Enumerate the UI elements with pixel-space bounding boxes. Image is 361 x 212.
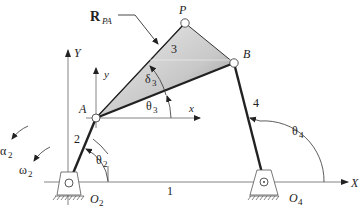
theta4-label: θ [292, 124, 298, 138]
fourbar-linkage-diagram: R PA P B A Y y x X 3 4 2 1 O 2 O 4 θ 2 θ… [0, 0, 361, 212]
theta3-label: θ [146, 99, 152, 113]
alpha2-label: α [0, 144, 7, 158]
theta4-sub-label: 4 [299, 130, 304, 140]
point-a-label: A [78, 102, 87, 116]
theta2-sub-label: 2 [103, 159, 108, 169]
alpha2-sub-label: 2 [8, 150, 13, 160]
o2-label: O [90, 192, 99, 206]
omega2-arrow [34, 147, 50, 161]
r-label: R [90, 9, 101, 24]
link-2-label: 2 [74, 132, 80, 146]
r-pa-leader-arrow [118, 15, 158, 44]
link-1-label: 1 [167, 184, 173, 198]
local-y-axis-label: y [103, 68, 109, 80]
local-x-axis-label: x [188, 102, 194, 114]
joint-a [92, 114, 100, 122]
theta2-arc [93, 139, 108, 154]
rocker-link-4 [234, 63, 264, 181]
r-sub-label: PA [101, 16, 112, 26]
link-3-label: 3 [171, 42, 177, 56]
joint-b [230, 59, 238, 67]
delta3-sub-label: 3 [152, 78, 157, 88]
alpha2-arrow [12, 126, 28, 139]
delta3-label: δ [145, 72, 151, 86]
link-4-label: 4 [253, 96, 259, 110]
o4-sub-label: 4 [298, 197, 303, 207]
ground-pivot-o2 [53, 172, 84, 200]
ground-pivot-o4 [248, 170, 279, 200]
y-axis-label: Y [74, 46, 82, 60]
point-b-label: B [243, 47, 251, 61]
theta2-label: θ [96, 153, 102, 167]
theta3-angle-arc [167, 96, 171, 118]
omega2-label: ω [19, 163, 27, 177]
x-axis-label: X [350, 176, 359, 190]
o2-sub-label: 2 [99, 198, 104, 208]
point-p [181, 19, 189, 27]
point-p-label: P [178, 3, 187, 17]
omega2-sub-label: 2 [28, 169, 33, 179]
o4-label: O [289, 191, 298, 205]
theta3-sub-label: 3 [153, 105, 158, 115]
